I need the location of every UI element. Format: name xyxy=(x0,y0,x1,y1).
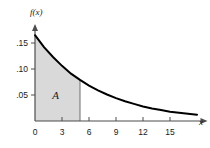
region-annotation-label: A xyxy=(51,89,59,101)
x-axis-label: x xyxy=(198,117,203,127)
y-axis-tick-labels: .05.10.15 xyxy=(16,38,28,100)
x-axis-tick-labels: 03691215 xyxy=(33,127,175,137)
y-tick-label: .10 xyxy=(16,64,28,74)
y-axis-label: f(x) xyxy=(30,7,43,17)
x-tick-label: 0 xyxy=(33,127,38,137)
x-tick-label: 12 xyxy=(138,127,148,137)
y-tick-label: .05 xyxy=(16,90,28,100)
y-tick-label: .15 xyxy=(16,38,28,48)
x-tick-label: 3 xyxy=(60,127,65,137)
exponential-decay-chart: 03691215 .05.10.15 f(x) x A xyxy=(0,0,210,148)
y-axis-arrowhead xyxy=(32,24,38,31)
chart-annotations: A xyxy=(51,89,59,101)
x-tick-label: 9 xyxy=(114,127,119,137)
figure-container: 03691215 .05.10.15 f(x) x A xyxy=(0,0,210,148)
x-tick-label: 15 xyxy=(165,127,175,137)
x-tick-label: 6 xyxy=(87,127,92,137)
shaded-region-A xyxy=(35,35,80,121)
